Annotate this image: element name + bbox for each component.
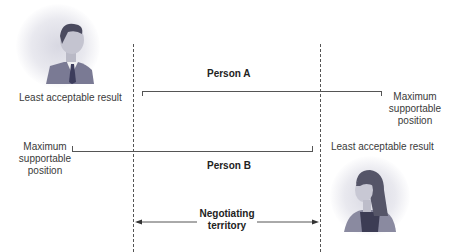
person-b-least-acceptable-label: Least acceptable result xyxy=(331,141,434,153)
woman-icon xyxy=(330,156,410,236)
person-b-range-tick-left xyxy=(72,146,73,151)
person-b-max-supportable-label: Maximum supportable position xyxy=(14,141,76,177)
person-b-label: Person B xyxy=(207,160,251,171)
negotiating-territory-label: Negotiating territory xyxy=(193,208,261,232)
person-a-range-tick-right xyxy=(381,91,382,96)
person-a-range-line xyxy=(142,91,382,92)
person-b-range-line xyxy=(72,151,313,152)
person-b-portrait xyxy=(330,156,410,236)
person-a-label: Person A xyxy=(207,68,251,79)
person-b-range-tick-right xyxy=(312,146,313,151)
man-icon xyxy=(16,4,100,88)
person-a-range-tick-left xyxy=(142,91,143,96)
person-a-least-acceptable-label: Least acceptable result xyxy=(19,92,122,104)
person-a-max-supportable-label: Maximum supportable position xyxy=(384,91,446,127)
person-a-portrait xyxy=(16,4,100,88)
